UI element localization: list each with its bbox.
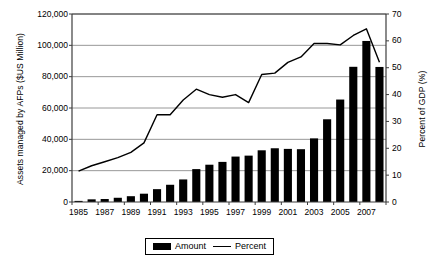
- bar: [284, 149, 292, 202]
- bar: [231, 157, 239, 202]
- bar-swatch-icon: [153, 243, 171, 250]
- bar: [192, 169, 200, 202]
- legend-entry-percent: Percent: [213, 241, 266, 252]
- line-series-percent: [79, 29, 380, 171]
- bar: [310, 138, 318, 202]
- bar: [375, 67, 383, 202]
- legend-label-percent: Percent: [235, 241, 266, 252]
- bar: [336, 100, 344, 202]
- plot-area: [0, 0, 437, 266]
- bar: [271, 148, 279, 202]
- legend-entry-amount: Amount: [153, 241, 206, 252]
- bar: [245, 156, 253, 202]
- bar: [140, 194, 148, 202]
- bar: [114, 198, 122, 202]
- line-swatch-icon: [213, 246, 231, 247]
- bar: [127, 196, 135, 202]
- bar: [205, 165, 213, 202]
- chart-legend: Amount Percent: [145, 238, 274, 255]
- bar: [323, 119, 331, 202]
- bar: [362, 41, 370, 202]
- bar-series-amount: [74, 41, 383, 202]
- bar: [297, 149, 305, 202]
- bar: [349, 67, 357, 202]
- chart-container: Assets managed by AFPs ($US Million) Per…: [0, 0, 437, 266]
- bar: [179, 179, 187, 202]
- bar: [166, 185, 174, 202]
- legend-label-amount: Amount: [175, 241, 206, 252]
- bar: [258, 150, 266, 202]
- bar: [218, 162, 226, 202]
- bar: [153, 189, 161, 202]
